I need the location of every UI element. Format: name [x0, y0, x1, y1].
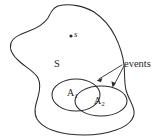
event-a1-label: A1: [67, 88, 77, 98]
probability-venn-diagram: s S A1 A2 events: [0, 0, 162, 139]
sample-point-dot: [69, 34, 72, 37]
event-a1-subscript: 1: [75, 92, 78, 99]
event-a1-base: A: [67, 87, 74, 98]
event-a2-subscript: 2: [102, 100, 105, 107]
events-callout-label: events: [124, 59, 151, 70]
event-a2-base: A: [94, 95, 101, 106]
sample-space-label: S: [54, 59, 60, 70]
diagram-canvas: [0, 0, 162, 139]
sample-space-outline: [10, 5, 134, 135]
sample-point-label: s: [74, 30, 78, 39]
event-a2-label: A2: [94, 96, 104, 106]
